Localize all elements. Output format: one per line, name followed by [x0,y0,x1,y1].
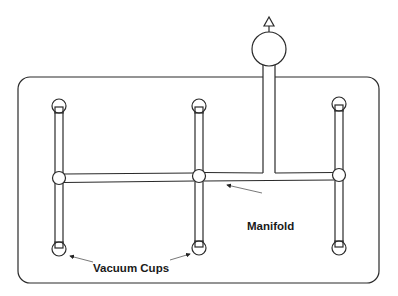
pump-stem-tube [263,64,275,176]
junction-right [333,169,346,182]
vacuum-cup-top-left [52,99,66,113]
vacuum-cup-bottom-middle [192,241,206,255]
junction-left [53,172,66,185]
exhaust-triangle-icon [264,17,274,26]
vacuum-cup-top-middle [192,99,206,113]
vacuum-gripper-diagram: Manifold Vacuum Cups [0,0,398,296]
manifold-label: Manifold [247,220,294,232]
vacuum-cups-leader-arrow-right [170,254,190,260]
manifold-leader-arrow [227,185,262,193]
vacuum-cups-leader-arrow-left [70,256,93,262]
vacuum-cup-bottom-left [52,242,66,256]
vacuum-cup-top-right [332,97,346,111]
vacuum-pump-icon [252,32,286,66]
vacuum-cup-bottom-right [332,241,346,255]
vacuum-cups-label: Vacuum Cups [93,262,169,274]
junction-middle [193,170,206,183]
